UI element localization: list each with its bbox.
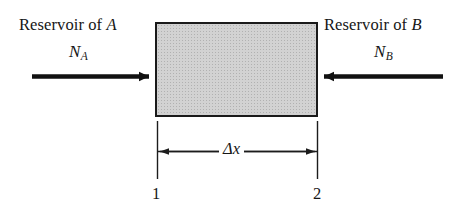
- flux-b-subscript: B: [385, 50, 392, 62]
- diffusion-control-volume-figure: Reservoir of A NA Reservoir of B NB Δx 1…: [0, 0, 472, 210]
- flux-a-symbol: NA: [69, 43, 88, 63]
- reservoir-b-title-prefix: Reservoir of: [324, 15, 411, 34]
- delta-x-label: Δx: [219, 141, 244, 158]
- reservoir-b-species: B: [411, 15, 421, 34]
- flux-a-base: N: [69, 42, 80, 61]
- reservoir-a-title: Reservoir of A: [19, 17, 117, 34]
- flux-b-base: N: [374, 42, 385, 61]
- control-volume-rectangle: [155, 22, 318, 117]
- flux-a-subscript: A: [80, 50, 87, 62]
- reservoir-a-title-prefix: Reservoir of: [19, 15, 106, 34]
- endpoint-label-2: 2: [313, 186, 321, 203]
- reservoir-a-species: A: [106, 15, 116, 34]
- endpoint-label-1: 1: [152, 186, 160, 203]
- reservoir-b-title: Reservoir of B: [324, 17, 422, 34]
- flux-b-symbol: NB: [374, 43, 393, 63]
